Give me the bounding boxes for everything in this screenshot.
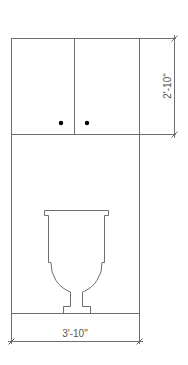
cabinet-knob-left bbox=[59, 121, 63, 125]
wall-outline bbox=[12, 39, 140, 314]
overall-width-label: 3'-10" bbox=[62, 328, 88, 339]
cabinet-knob-right bbox=[85, 121, 89, 125]
toilet-outline bbox=[45, 211, 109, 314]
elevation-drawing: 2'-10" 3'-10" bbox=[0, 0, 188, 365]
cabinet-height-label: 2'-10" bbox=[162, 73, 173, 99]
